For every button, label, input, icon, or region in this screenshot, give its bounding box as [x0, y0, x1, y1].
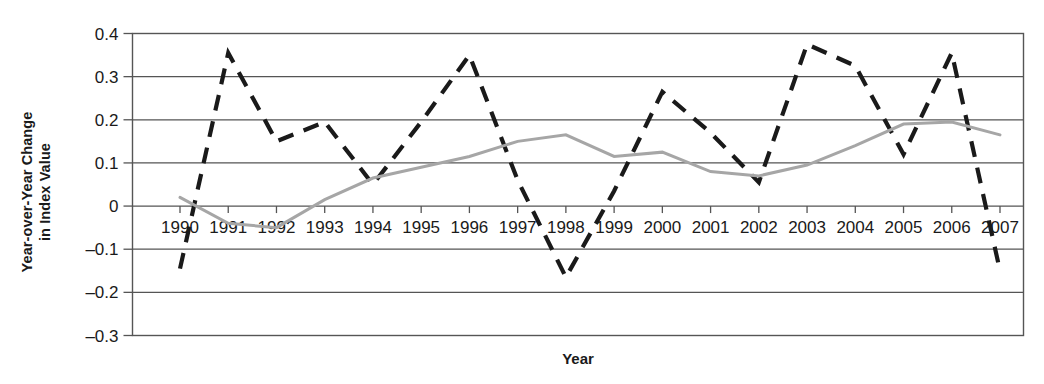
x-tick-label: 2005 [885, 218, 923, 237]
y-axis-ticks [124, 34, 133, 336]
x-tick-label: 1998 [547, 218, 585, 237]
y-tick-label: 0.1 [95, 154, 119, 173]
y-tick-label: –0.2 [85, 283, 118, 302]
chart-figure: Year-over-Year Change in Index Value 0.4… [0, 0, 1044, 384]
x-axis-title: Year [562, 350, 594, 367]
x-tick-label: 1995 [402, 218, 440, 237]
series-solid-gray-series [180, 122, 1000, 228]
y-tick-label: 0.4 [95, 25, 119, 44]
grid-lines [133, 77, 1024, 293]
x-tick-label: 2006 [933, 218, 971, 237]
y-tick-label: 0 [109, 197, 118, 216]
x-tick-label: 1997 [499, 218, 537, 237]
plot-area-border [133, 34, 1024, 336]
x-tick-label: 2007 [981, 218, 1019, 237]
y-tick-label: –0.1 [85, 240, 118, 259]
x-tick-label: 1994 [354, 218, 392, 237]
x-tick-label: 2003 [788, 218, 826, 237]
x-tick-label: 2000 [643, 218, 681, 237]
y-tick-label: –0.3 [85, 327, 118, 346]
x-tick-label: 2002 [740, 218, 778, 237]
y-axis-tick-labels: 0.40.30.20.10–0.1–0.2–0.3 [85, 25, 118, 346]
x-tick-label: 1993 [306, 218, 344, 237]
x-tick-label: 1996 [450, 218, 488, 237]
line-chart-plot: 0.40.30.20.10–0.1–0.2–0.3 19901991199219… [0, 0, 1044, 384]
series-dashed-series [180, 44, 1000, 277]
x-tick-label: 1999 [595, 218, 633, 237]
data-series-paths [180, 44, 1000, 277]
x-tick-label: 1991 [209, 218, 247, 237]
x-tick-label: 1990 [161, 218, 199, 237]
x-tick-label: 2001 [692, 218, 730, 237]
y-tick-label: 0.3 [95, 68, 119, 87]
x-tick-label: 2004 [836, 218, 874, 237]
y-tick-label: 0.2 [95, 111, 119, 130]
